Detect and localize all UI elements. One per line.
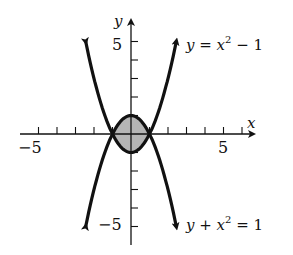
y-tick-label-max: 5 (112, 35, 122, 54)
curve1-label: y = x2 − 1 (185, 34, 263, 54)
curve2-label: y + x2 = 1 (185, 214, 263, 234)
x-axis-label: x (247, 114, 256, 132)
plot: y x −5 5 5 −5 y = x2 − 1 y + x2 = 1 (0, 0, 293, 255)
x-tick-label-max: 5 (218, 138, 228, 157)
y-tick-label-min: −5 (98, 215, 122, 234)
y-axis-label: y (113, 12, 123, 30)
x-tick-label-min: −5 (18, 138, 42, 157)
chart-root: y x −5 5 5 −5 y = x2 − 1 y + x2 = 1 (0, 0, 293, 255)
